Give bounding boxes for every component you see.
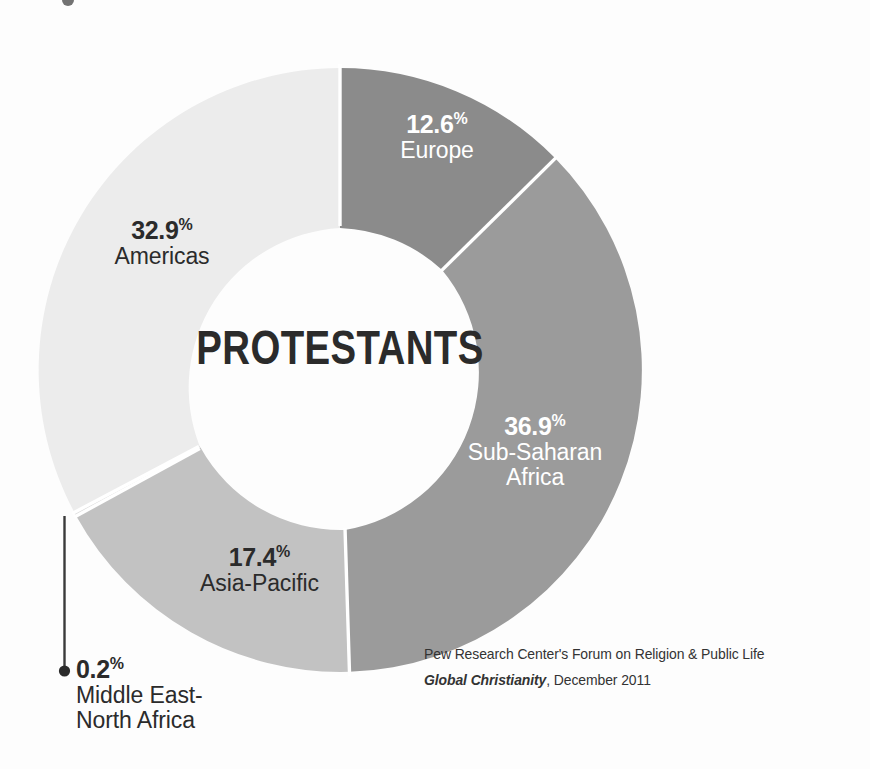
source-citation: Pew Research Center's Forum on Religion … xyxy=(424,641,854,694)
slice-label-americas: 32.9% Americas xyxy=(62,216,262,269)
slice-label-asia-pacific: 17.4% Asia-Pacific xyxy=(152,543,367,596)
slice-label-sub-saharan-africa: 36.9% Sub-Saharan Africa xyxy=(440,412,630,489)
source-publication-line: Global Christianity, December 2011 xyxy=(424,667,824,693)
slice-name-asia-pacific: Asia-Pacific xyxy=(152,571,367,596)
slice-label-europe: 12.6% Europe xyxy=(352,110,522,163)
slice-name-sub-saharan-africa-line1: Sub-Saharan xyxy=(440,440,630,465)
percent-symbol: % xyxy=(276,543,290,560)
percent-symbol: % xyxy=(552,412,566,429)
slice-value-asia-pacific: 17.4% xyxy=(152,543,367,571)
slice-value-americas: 32.9% xyxy=(62,216,262,244)
slice-name-mena-line1: Middle East- xyxy=(76,683,296,708)
percent-symbol: % xyxy=(454,110,468,127)
slice-name-mena-line2: North Africa xyxy=(76,708,296,733)
chart-page: PROTESTANTS 12.6% Europe 36.9% Sub-Sahar… xyxy=(0,0,870,769)
slice-name-europe: Europe xyxy=(352,138,522,163)
slice-label-middle-east-north-africa: 0.2% Middle East- North Africa xyxy=(76,655,296,732)
slice-name-sub-saharan-africa-line2: Africa xyxy=(440,465,630,490)
page-title: PROTESTANTS xyxy=(180,320,500,375)
source-publication-date: , December 2011 xyxy=(546,671,651,688)
slice-americas[interactable] xyxy=(39,68,340,513)
source-publication-title: Global Christianity xyxy=(424,671,546,688)
percent-symbol: % xyxy=(179,216,193,233)
percent-symbol: % xyxy=(110,655,124,672)
slice-value-sub-saharan-africa: 36.9% xyxy=(440,412,630,440)
slice-name-americas: Americas xyxy=(62,244,262,269)
slice-value-europe: 12.6% xyxy=(352,110,522,138)
source-organization: Pew Research Center's Forum on Religion … xyxy=(424,641,824,667)
slice-value-middle-east-north-africa: 0.2% xyxy=(76,655,296,683)
